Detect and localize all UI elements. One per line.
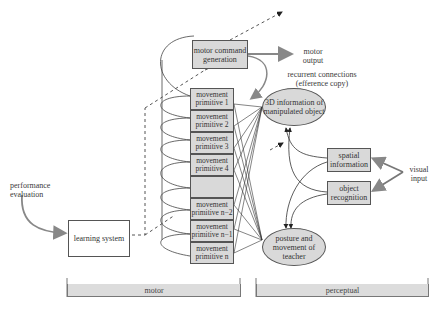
visual-input-label: visual input — [405, 165, 433, 183]
movement-primitive-1: movement primitive 1 — [190, 88, 234, 110]
movement-primitive-4: movement primitive 4 — [190, 154, 234, 176]
movement-primitive-n: movement primitive n — [190, 242, 234, 264]
motor-command-generation-box: motor command generation — [192, 40, 248, 69]
movement-primitive-3: movement primitive 3 — [190, 132, 234, 154]
movement-primitive-n-2: movement primitive n−2 — [190, 198, 234, 220]
movement-primitive-gap — [190, 176, 234, 198]
perceptual-bar: perceptual — [256, 284, 429, 297]
recurrent-connections-label: recurrent connections (efference copy) — [272, 70, 372, 88]
movement-primitive-n-1: movement primitive n−1 — [190, 220, 234, 242]
object-recognition-box: object recognition — [327, 181, 371, 205]
motor-output-label: motor output — [296, 47, 330, 65]
learning-system-box: learning system — [68, 220, 130, 257]
recurrent-loops — [160, 36, 194, 256]
spatial-information-box: spatial information — [327, 148, 371, 172]
3d-information-ellipse: 3D information of manipulated object — [262, 88, 326, 126]
posture-movement-ellipse: posture and movement of teacher — [262, 228, 326, 266]
motor-bar: motor — [67, 284, 241, 297]
movement-primitive-2: movement primitive 2 — [190, 110, 234, 132]
performance-evaluation-label: performance evaluation — [10, 181, 62, 199]
